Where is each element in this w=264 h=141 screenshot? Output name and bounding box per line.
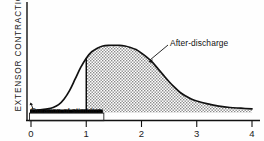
stimulus-duration-label: Duration of stimulus [31, 106, 101, 115]
x-tick-label-3: 3 [194, 128, 199, 139]
x-tick-label-2: 2 [139, 128, 144, 139]
after-discharge-leader-arrow [148, 45, 168, 63]
after-discharge-shaded-region [86, 45, 252, 112]
x-axis-tick-labels: 01234 [28, 128, 254, 139]
figure-extensor-contraction-after-discharge: 01234 EXTENSOR CONTRACTION Duration of s… [0, 0, 264, 141]
x-tick-label-1: 1 [84, 128, 89, 139]
x-tick-label-0: 0 [28, 128, 33, 139]
x-axis-ticks [31, 121, 252, 127]
y-axis-label: EXTENSOR CONTRACTION [14, 2, 23, 112]
x-tick-label-4: 4 [249, 128, 254, 139]
after-discharge-annotation-label: After-discharge [170, 38, 228, 48]
chart-canvas: 01234 [0, 0, 264, 141]
